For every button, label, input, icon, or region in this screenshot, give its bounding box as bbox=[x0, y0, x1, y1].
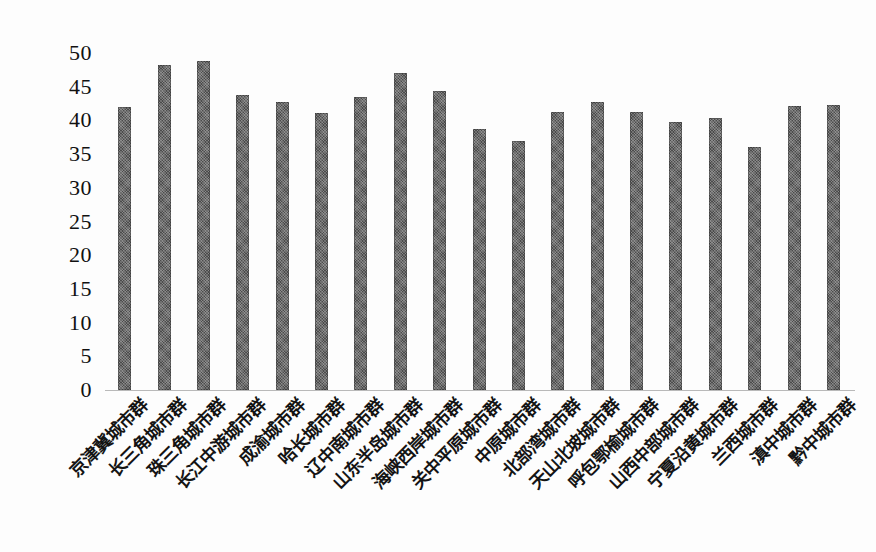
y-tick-label: 5 bbox=[81, 343, 93, 369]
y-tick-label: 45 bbox=[69, 74, 92, 100]
x-axis-labels: 京津冀城市群长三角城市群珠三角城市群长江中游城市群成渝城市群哈长城市群辽中南城市… bbox=[105, 392, 853, 550]
bar-slot bbox=[184, 53, 223, 390]
bar-slot bbox=[696, 53, 735, 390]
bar-slot bbox=[341, 53, 380, 390]
x-axis-line bbox=[105, 390, 855, 391]
y-tick-label: 25 bbox=[69, 209, 92, 235]
y-axis: 50454035302520151050 bbox=[0, 0, 105, 400]
bar-slot bbox=[105, 53, 144, 390]
bar-slot bbox=[656, 53, 695, 390]
bar[interactable] bbox=[630, 112, 643, 390]
y-tick-label: 35 bbox=[69, 141, 92, 167]
bar-slot bbox=[381, 53, 420, 390]
y-tick-label: 40 bbox=[69, 107, 92, 133]
y-tick-label: 10 bbox=[69, 310, 92, 336]
y-tick-label: 0 bbox=[81, 377, 93, 403]
bar-slot bbox=[223, 53, 262, 390]
bar[interactable] bbox=[118, 107, 131, 390]
y-tick-label: 30 bbox=[69, 175, 92, 201]
bar-slot bbox=[499, 53, 538, 390]
bar-slot bbox=[774, 53, 813, 390]
bar[interactable] bbox=[158, 65, 171, 390]
bar-slot bbox=[538, 53, 577, 390]
bar[interactable] bbox=[788, 106, 801, 390]
y-tick-label: 20 bbox=[69, 242, 92, 268]
bar-slot bbox=[144, 53, 183, 390]
bar[interactable] bbox=[394, 73, 407, 390]
bar-chart: 50454035302520151050 京津冀城市群长三角城市群珠三角城市群长… bbox=[0, 0, 876, 552]
bar-slot bbox=[459, 53, 498, 390]
bar[interactable] bbox=[591, 102, 604, 390]
bar[interactable] bbox=[709, 118, 722, 390]
bar-slot bbox=[617, 53, 656, 390]
bar-slot bbox=[263, 53, 302, 390]
bar[interactable] bbox=[433, 91, 446, 390]
bar-slot bbox=[302, 53, 341, 390]
bar[interactable] bbox=[315, 113, 328, 390]
bar-slot bbox=[735, 53, 774, 390]
bar-slot bbox=[814, 53, 853, 390]
bar[interactable] bbox=[669, 122, 682, 390]
bar-slot bbox=[420, 53, 459, 390]
y-tick-label: 50 bbox=[69, 40, 92, 66]
bar[interactable] bbox=[197, 61, 210, 390]
bar-slot bbox=[578, 53, 617, 390]
bar-series bbox=[105, 53, 853, 390]
y-tick-label: 15 bbox=[69, 276, 92, 302]
bar[interactable] bbox=[236, 95, 249, 390]
bar[interactable] bbox=[276, 102, 289, 390]
bar[interactable] bbox=[512, 141, 525, 390]
bar[interactable] bbox=[551, 112, 564, 390]
bar[interactable] bbox=[827, 105, 840, 390]
bar[interactable] bbox=[748, 147, 761, 390]
bar[interactable] bbox=[473, 129, 486, 390]
bar[interactable] bbox=[354, 97, 367, 390]
